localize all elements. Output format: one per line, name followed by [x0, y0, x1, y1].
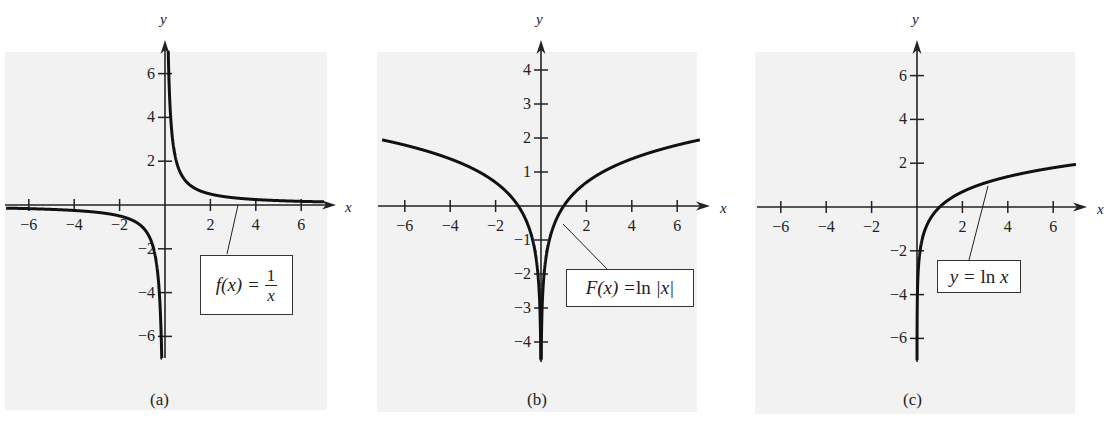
caption-b: (b) [527, 390, 547, 410]
y-tick-label: −2 [514, 265, 531, 282]
x-tick-label: 4 [628, 217, 636, 234]
plot-b: −6−4−2246−4−3−2−11234xy [370, 0, 745, 427]
x-tick-label: 2 [582, 217, 590, 234]
x-tick-label: 6 [297, 216, 305, 233]
y-tick-label: −3 [514, 299, 531, 316]
panel-b: −6−4−2246−4−3−2−11234xy F(x) = ln |x| (b… [370, 0, 745, 427]
panel-c: −6−4−2246−6−4−2246xy y = ln x (c) [745, 0, 1118, 427]
x-tick-label: −4 [442, 217, 459, 234]
y-tick-label: 6 [899, 67, 907, 84]
label-lhs: F(x) = [586, 277, 636, 299]
x-tick-label: −4 [818, 218, 835, 235]
x-tick-label: −6 [20, 216, 37, 233]
plot-background [377, 52, 697, 412]
y-tick-label: 2 [523, 129, 531, 146]
y-tick-label: −2 [890, 242, 907, 259]
x-axis-label: x [1096, 201, 1104, 217]
function-label-a: f(x) = 1 x [200, 255, 293, 315]
plot-background [755, 52, 1075, 414]
x-tick-label: 2 [206, 216, 214, 233]
y-tick-label: 4 [899, 110, 907, 127]
function-label-b: F(x) = ln |x| [566, 269, 694, 307]
y-axis-label: y [158, 11, 167, 27]
caption-c: (c) [903, 390, 922, 410]
fraction-numerator: 1 [265, 267, 278, 286]
y-tick-label: −1 [514, 231, 531, 248]
x-tick-label: −6 [772, 218, 789, 235]
panel-a: −6−4−2246−6−4−2246xy f(x) = 1 x (a) [0, 0, 370, 427]
x-tick-label: 2 [958, 218, 966, 235]
x-axis-label: x [344, 199, 352, 215]
y-tick-label: −6 [890, 329, 907, 346]
y-tick-label: 3 [523, 95, 531, 112]
label-lhs: y = [950, 266, 981, 288]
x-tick-label: −2 [863, 218, 880, 235]
x-tick-label: 4 [1004, 218, 1012, 235]
plot-a: −6−4−2246−6−4−2246xy [0, 0, 370, 427]
plot-background [5, 52, 327, 410]
label-fn: ln [980, 266, 995, 288]
y-axis-label: y [534, 11, 543, 27]
y-tick-label: 2 [147, 152, 155, 169]
label-fn: ln [636, 277, 651, 299]
y-tick-label: 4 [523, 61, 531, 78]
y-tick-label: −4 [138, 284, 155, 301]
x-tick-label: −4 [66, 216, 83, 233]
x-axis-label: x [719, 200, 727, 216]
x-tick-label: 6 [673, 217, 681, 234]
label-rhs: |x| [651, 277, 675, 299]
caption-a: (a) [150, 390, 169, 410]
y-tick-label: 2 [899, 154, 907, 171]
y-tick-label: 6 [147, 65, 155, 82]
fraction-denominator: x [267, 286, 275, 304]
x-tick-label: −2 [487, 217, 504, 234]
label-lhs: f(x) = [216, 274, 260, 296]
x-tick-label: −6 [396, 217, 413, 234]
y-tick-label: −4 [514, 333, 531, 350]
fraction: 1 x [265, 267, 278, 304]
y-tick-label: −6 [138, 327, 155, 344]
plot-c: −6−4−2246−6−4−2246xy [745, 0, 1118, 427]
y-tick-label: 4 [147, 108, 155, 125]
function-label-c: y = ln x [937, 260, 1021, 293]
y-tick-label: −4 [890, 286, 907, 303]
y-tick-label: 1 [523, 163, 531, 180]
x-tick-label: 6 [1049, 218, 1057, 235]
x-tick-label: 4 [252, 216, 260, 233]
y-axis-label: y [910, 11, 919, 27]
label-rhs: x [995, 266, 1008, 288]
